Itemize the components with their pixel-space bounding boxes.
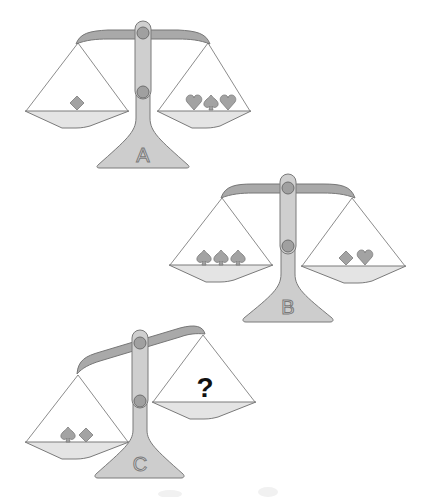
diamond-icon — [339, 251, 353, 265]
diamond-icon — [70, 96, 84, 110]
spade-icon — [61, 427, 75, 442]
heart-icon — [357, 250, 373, 265]
scale-c: ? C — [25, 326, 256, 478]
scale-b-label: B — [281, 296, 294, 318]
scale-a-top-pivot — [137, 27, 149, 39]
scale-a-right-pan — [157, 111, 251, 128]
scale-c-top-pivot — [134, 337, 146, 349]
diamond-icon — [79, 428, 93, 442]
scale-a-right-ropes — [158, 43, 250, 111]
spade-icon — [231, 250, 245, 265]
scale-a-lower-pivot — [137, 86, 149, 98]
scale-a: A — [25, 21, 251, 168]
scale-b-right-pan — [301, 266, 406, 283]
scale-a-label: A — [136, 144, 150, 166]
scale-c-left-ropes — [26, 375, 128, 442]
scale-b-top-pivot — [282, 182, 294, 194]
scale-b-left-pan — [169, 265, 273, 282]
spade-icon — [204, 95, 218, 110]
scale-c-right-pan — [152, 402, 256, 419]
scale-c-label: C — [133, 453, 147, 475]
heart-icon — [220, 95, 236, 110]
scale-b: B — [169, 174, 406, 322]
spade-icon — [214, 250, 228, 265]
watermark-shape — [258, 487, 278, 497]
scale-a-left-pan — [25, 111, 129, 128]
heart-icon — [186, 95, 202, 110]
spade-icon — [197, 250, 211, 265]
balance-puzzle-diagram: A B ? C — [0, 0, 423, 497]
question-mark: ? — [196, 372, 213, 403]
scale-b-lower-pivot — [282, 240, 294, 252]
watermark-shape — [158, 490, 182, 497]
scale-c-lower-pivot — [134, 395, 146, 407]
scale-c-left-pan — [25, 442, 129, 459]
scale-b-right-ropes — [302, 198, 405, 266]
